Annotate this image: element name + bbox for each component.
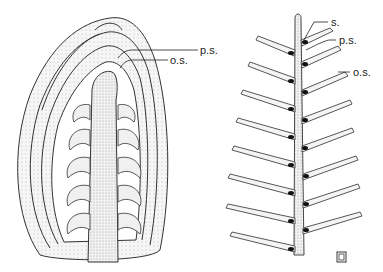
- label-s-right: s.: [331, 16, 340, 28]
- label-ps-right: p.s.: [339, 34, 357, 46]
- label-ps-left: p.s.: [200, 44, 218, 56]
- axis-with-scales: [226, 14, 362, 255]
- illustration: p.s. o.s.: [0, 0, 383, 272]
- label-os-right: o.s.: [353, 66, 371, 78]
- artist-monogram: [337, 252, 346, 262]
- bud-section: [18, 18, 168, 262]
- label-os-left: o.s.: [170, 54, 188, 66]
